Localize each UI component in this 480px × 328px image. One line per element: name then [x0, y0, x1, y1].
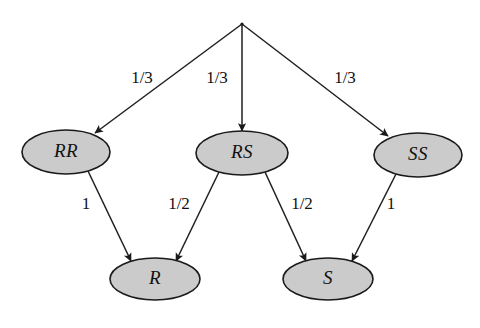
- edge-line-root-SS: [242, 24, 388, 136]
- node-group: RR RS SS R S: [22, 130, 462, 300]
- edge-line-SS-S: [352, 174, 396, 261]
- edge-label-RS-R: 1/2: [168, 194, 190, 213]
- edge-label-RS-S: 1/2: [291, 194, 313, 213]
- node-label-S: S: [323, 267, 333, 288]
- edge-label-root-RR: 1/3: [131, 68, 153, 87]
- edge-root-to-SS: [242, 24, 388, 136]
- edge-RS-to-R: [176, 172, 219, 261]
- node-SS[interactable]: SS: [374, 133, 462, 177]
- root-node: [240, 22, 243, 25]
- node-RR[interactable]: RR: [22, 130, 110, 174]
- edge-label-SS-S: 1: [387, 194, 396, 213]
- edge-label-root-RS: 1/3: [206, 68, 228, 87]
- edge-label-root-SS: 1/3: [334, 68, 356, 87]
- edge-SS-to-S: [352, 174, 396, 261]
- edge-line-RS-S: [265, 172, 306, 261]
- node-label-SS: SS: [408, 143, 428, 164]
- node-R[interactable]: R: [110, 258, 200, 300]
- node-RS[interactable]: RS: [196, 131, 288, 175]
- node-label-R: R: [148, 267, 161, 288]
- tree-canvas: RR RS SS R S 1/3 1/3 1/3: [0, 0, 480, 328]
- node-S[interactable]: S: [283, 258, 373, 300]
- probability-tree-diagram: RR RS SS R S 1/3 1/3 1/3: [0, 0, 480, 328]
- edge-RS-to-S: [265, 172, 306, 261]
- node-label-RR: RR: [53, 140, 78, 161]
- edge-line-RS-R: [176, 172, 219, 261]
- edge-line-RR-R: [88, 171, 131, 261]
- edge-RR-to-R: [88, 171, 131, 261]
- node-label-RS: RS: [230, 141, 253, 162]
- edge-label-RR-R: 1: [82, 194, 91, 213]
